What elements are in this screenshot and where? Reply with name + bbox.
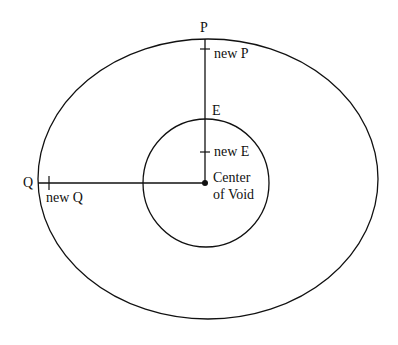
label-p: P: [200, 20, 208, 36]
center-of-void-dot: [202, 180, 208, 186]
label-center-line2: of Void: [213, 187, 254, 203]
label-new-q: new Q: [46, 190, 83, 206]
label-e: E: [212, 103, 221, 119]
label-center-line1: Center: [213, 170, 250, 186]
label-q: Q: [23, 175, 33, 191]
label-new-p: new P: [214, 46, 249, 62]
label-new-e: new E: [214, 144, 249, 160]
outer-circle: [38, 39, 378, 319]
void-diagram: P new P E new E Q new Q Center of Void: [0, 0, 398, 345]
diagram-canvas: [0, 0, 398, 345]
